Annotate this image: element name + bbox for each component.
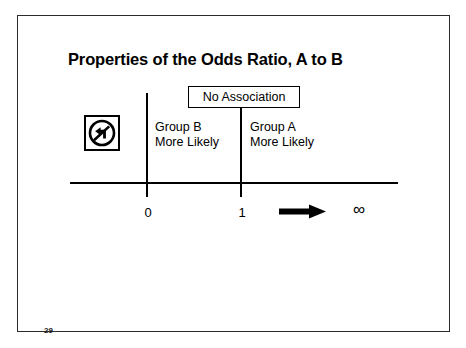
no-left-turn-icon [88, 119, 116, 147]
tick-label-zero: 0 [138, 205, 158, 220]
no-left-turn-sign-box [84, 115, 120, 151]
no-association-label: No Association [203, 91, 286, 104]
region-right-line2: More Likely [250, 135, 314, 150]
infinity-symbol: ∞ [344, 201, 374, 218]
region-label-right: Group A More Likely [250, 120, 314, 150]
region-right-line1: Group A [250, 120, 314, 135]
region-left-line2: More Likely [155, 135, 219, 150]
no-association-callout: No Association [188, 86, 300, 108]
increasing-direction-arrow-icon [279, 204, 327, 219]
region-label-left: Group B More Likely [155, 120, 219, 150]
slide-canvas: Properties of the Odds Ratio, A to B No … [0, 0, 466, 348]
region-left-line1: Group B [155, 120, 219, 135]
page-title: Properties of the Odds Ratio, A to B [68, 50, 343, 69]
slide-page-number: 29 [44, 326, 53, 335]
slide-frame: Properties of the Odds Ratio, A to B No … [17, 15, 450, 332]
number-line-axis [70, 182, 398, 184]
tick-label-one: 1 [232, 205, 252, 220]
